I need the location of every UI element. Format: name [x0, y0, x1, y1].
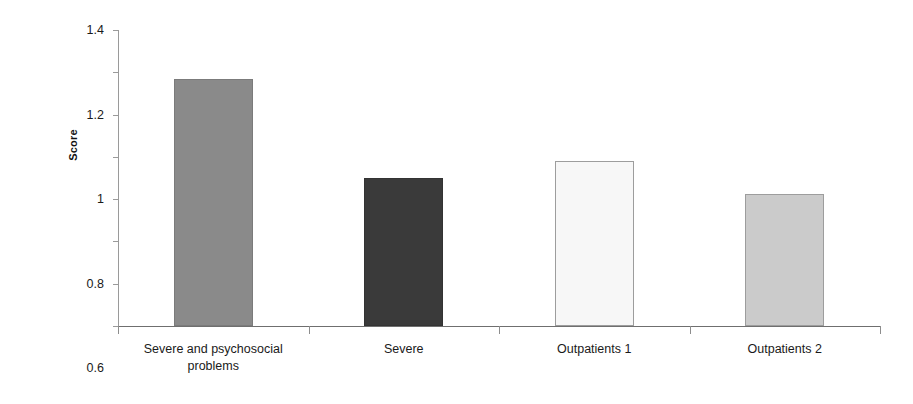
y-tick-mark: 1.4: [113, 30, 119, 31]
y-tick-label: 1: [97, 192, 104, 206]
category-label-line: Outpatients 1: [499, 341, 690, 358]
y-tick-mark: 0.2: [113, 284, 119, 285]
x-axis-category-label: Outpatients 2: [690, 341, 881, 358]
bar-chart: Score 00.20.40.60.811.21.4 Severe and ps…: [0, 0, 913, 404]
bar: [174, 79, 253, 326]
bar: [364, 178, 443, 326]
y-tick-label: 1.4: [87, 23, 104, 37]
category-label-line: Severe and psychosocial: [118, 341, 309, 358]
y-tick-label: 0.8: [87, 277, 104, 291]
bar: [555, 161, 634, 326]
bar: [745, 194, 824, 326]
y-tick-mark: 0.8: [113, 157, 119, 158]
y-axis-line: [118, 30, 119, 327]
y-tick-mark: 0.4: [113, 241, 119, 242]
category-label-line: Outpatients 2: [690, 341, 881, 358]
y-tick-mark: 1: [113, 115, 119, 116]
plot-area: 00.20.40.60.811.21.4: [118, 30, 880, 326]
x-tick-mark: [690, 326, 691, 334]
y-tick-mark: 0.6: [113, 199, 119, 200]
y-tick-label: 0.6: [87, 361, 104, 375]
x-axis-category-label: Outpatients 1: [499, 341, 690, 358]
category-label-line: problems: [118, 358, 309, 375]
x-tick-mark: [499, 326, 500, 334]
y-tick-mark: 1.2: [113, 72, 119, 73]
x-tick-mark: [880, 326, 881, 334]
x-axis-category-label: Severe and psychosocialproblems: [118, 341, 309, 375]
y-tick-label: 1.2: [87, 108, 104, 122]
x-tick-mark: [309, 326, 310, 334]
x-axis-category-label: Severe: [309, 341, 500, 358]
x-tick-mark: [118, 326, 119, 334]
category-label-line: Severe: [309, 341, 500, 358]
